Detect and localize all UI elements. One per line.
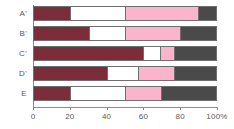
bar-segment-segment-4 [161, 87, 216, 100]
x-tick-100 [217, 107, 218, 110]
stacked-bar-chart: A'B'C'D'E 020406080100% [0, 0, 234, 129]
category-label-3: D' [0, 66, 27, 81]
stacked-bar [33, 86, 217, 101]
bar-segment-segment-4 [174, 67, 216, 80]
x-tick-label-80: 80 [176, 112, 185, 121]
x-tick-60 [143, 107, 144, 110]
stacked-bar [33, 66, 217, 81]
bar-segment-segment-2 [70, 87, 125, 100]
x-tick-label-100: 100% [206, 112, 227, 121]
bar-row [33, 86, 217, 101]
bar-row [33, 46, 217, 61]
category-label-4: E [0, 86, 27, 101]
bar-segment-segment-1 [34, 27, 89, 40]
category-label-1: B' [0, 26, 27, 41]
bar-segment-segment-1 [34, 47, 143, 60]
bar-segment-segment-1 [34, 7, 70, 20]
bar-segment-segment-2 [143, 47, 159, 60]
stacked-bar [33, 6, 217, 21]
bar-segment-segment-1 [34, 67, 107, 80]
stacked-bar [33, 46, 217, 61]
stacked-bar [33, 26, 217, 41]
x-tick-label-0: 0 [31, 112, 36, 121]
category-label-2: C' [0, 46, 27, 61]
x-tick-80 [180, 107, 181, 110]
bar-row [33, 26, 217, 41]
x-tick-40 [107, 107, 108, 110]
bar-segment-segment-4 [198, 7, 216, 20]
bar-segment-segment-2 [70, 7, 125, 20]
bar-segment-segment-3 [160, 47, 175, 60]
bar-segment-segment-2 [89, 27, 125, 40]
bar-row [33, 6, 217, 21]
bar-segment-segment-3 [125, 87, 161, 100]
bar-segment-segment-4 [174, 47, 216, 60]
x-tick-label-20: 20 [65, 112, 74, 121]
category-label-0: A' [0, 6, 27, 21]
bar-segment-segment-3 [125, 27, 180, 40]
bar-segment-segment-3 [125, 7, 198, 20]
x-tick-0 [33, 107, 34, 110]
x-tick-label-40: 40 [102, 112, 111, 121]
x-tick-20 [70, 107, 71, 110]
plot-area [33, 5, 217, 108]
bar-segment-segment-2 [107, 67, 138, 80]
bar-segment-segment-3 [138, 67, 174, 80]
x-tick-label-60: 60 [139, 112, 148, 121]
bar-row [33, 66, 217, 81]
bar-segment-segment-1 [34, 87, 70, 100]
bar-segment-segment-4 [180, 27, 216, 40]
